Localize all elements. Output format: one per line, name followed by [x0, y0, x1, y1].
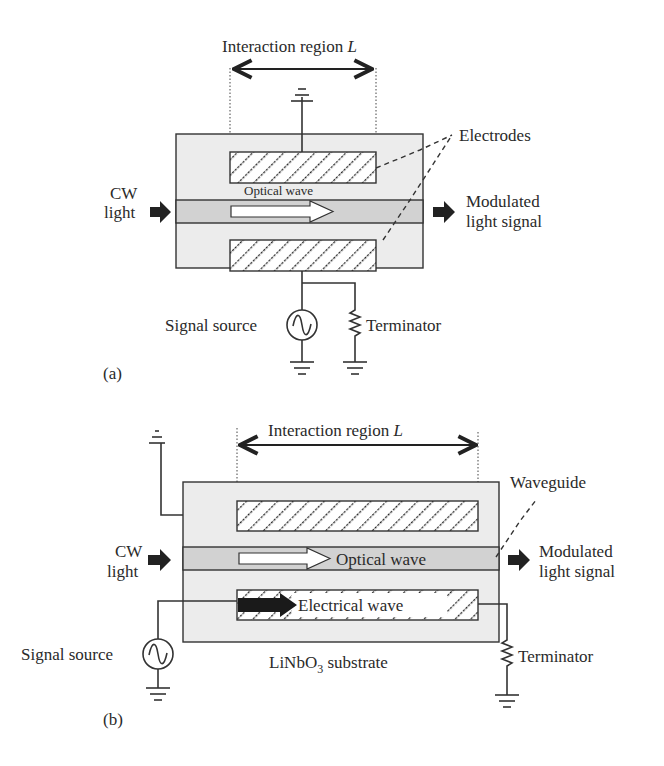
cw-label-b: CW	[115, 542, 143, 561]
input-arrow-icon-a	[150, 201, 171, 223]
signal-source-label-b: Signal source	[21, 645, 113, 664]
light-signal-label-a: light signal	[466, 212, 542, 231]
modulator-diagram: Interaction region L Optical wave Electr…	[0, 0, 664, 766]
signal-source-icon	[287, 310, 317, 374]
light-label-b: light	[107, 562, 138, 581]
cw-label-a: CW	[110, 184, 138, 203]
input-arrow-icon-b	[148, 549, 171, 571]
panel-label-a: (a)	[103, 364, 122, 383]
light-signal-label-b: light signal	[539, 562, 615, 581]
optical-wave-label-a: Optical wave	[244, 183, 313, 198]
resistor-icon	[343, 295, 367, 374]
waveguide-label: Waveguide	[510, 473, 586, 492]
waveguide-leader	[496, 500, 536, 557]
electrodes-label: Electrodes	[459, 126, 531, 145]
interaction-region-label-b: Interaction region L	[268, 421, 403, 440]
terminator-label-a: Terminator	[366, 316, 442, 335]
interaction-region-label-a: Interaction region L	[222, 37, 357, 56]
terminator-label-b: Terminator	[518, 647, 594, 666]
substrate-label: LiNbO3 substrate	[269, 653, 388, 676]
figure-b: Interaction region L Optical wave Electr…	[21, 421, 615, 729]
electrode-top-b	[237, 501, 478, 531]
modulated-label-a: Modulated	[466, 192, 540, 211]
modulated-label-b: Modulated	[539, 542, 613, 561]
figure-a: Interaction region L Optical wave Electr…	[103, 37, 542, 383]
electrical-wave-label: Electrical wave	[298, 596, 403, 615]
electrode-bottom-a	[230, 240, 376, 271]
optical-wave-label-b: Optical wave	[336, 550, 426, 569]
signal-source-label-a: Signal source	[165, 316, 257, 335]
output-arrow-icon-b	[508, 549, 530, 571]
electrode-top-a	[230, 152, 376, 183]
output-arrow-icon-a	[433, 201, 455, 223]
light-label-a: light	[104, 203, 135, 222]
wiring-a	[302, 271, 355, 310]
panel-label-b: (b)	[103, 710, 123, 729]
